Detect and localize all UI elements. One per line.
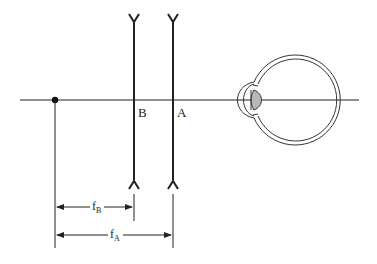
lens-B-label: B bbox=[138, 105, 147, 120]
optics-diagram: B A fB fA bbox=[0, 0, 377, 264]
focal-length-B-label: fB bbox=[92, 199, 101, 215]
lens-A bbox=[168, 14, 178, 189]
lens-A-label: A bbox=[177, 105, 187, 120]
lens-B bbox=[129, 14, 139, 189]
focal-length-A-label: fA bbox=[110, 227, 120, 243]
